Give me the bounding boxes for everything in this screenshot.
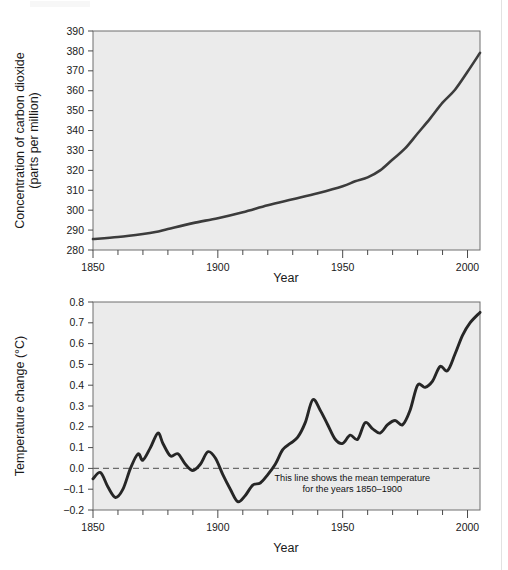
temp-y-axis-ticks: −0.2−0.10.00.10.20.30.40.50.60.70.8 (63, 296, 93, 516)
co2-y-axis-title-line: Concentration of carbon dioxide (13, 52, 27, 229)
temp-x-tick-label: 1900 (206, 521, 230, 533)
co2-y-tick-label: 360 (66, 84, 84, 96)
temp-y-tick-label: 0.8 (69, 296, 84, 308)
temp-y-tick-label: 0.4 (69, 379, 84, 391)
temp-x-tick-label: 1850 (81, 521, 105, 533)
co2-y-tick-label: 310 (66, 184, 84, 196)
co2-y-axis-title-line: (parts per million) (27, 92, 41, 189)
co2-y-axis-ticks: 280290300310320330340350360370380390 (66, 25, 93, 256)
co2-y-tick-label: 280 (66, 244, 84, 256)
temp-x-axis-title: Year (273, 541, 298, 555)
co2-x-tick-label: 1950 (331, 261, 355, 273)
page-root: Whole noil ligingo o'nsu ngnu e ni 28029… (0, 0, 508, 570)
co2-y-tick-label: 300 (66, 204, 84, 216)
temp-y-tick-label: 0.3 (69, 400, 84, 412)
co2-y-tick-label: 350 (66, 104, 84, 116)
chart-temperature-change-svg: −0.2−0.10.00.10.20.30.40.50.60.70.8 1850… (0, 288, 508, 570)
co2-y-tick-label: 370 (66, 64, 84, 76)
temp-y-tick-label: 0.2 (69, 420, 84, 432)
temp-y-tick-label: −0.1 (63, 483, 84, 495)
co2-y-axis-title: Concentration of carbon dioxide(parts pe… (13, 52, 41, 229)
temp-y-tick-label: 0.1 (69, 441, 84, 453)
co2-x-tick-label: 1850 (81, 261, 105, 273)
co2-x-tick-label: 2000 (456, 261, 480, 273)
chart-carbon-dioxide-svg: 280290300310320330340350360370380390 185… (0, 0, 508, 288)
temp-x-tick-label: 1950 (331, 521, 355, 533)
temp-y-tick-label: 0.0 (69, 462, 84, 474)
chart-carbon-dioxide: 280290300310320330340350360370380390 185… (0, 0, 508, 288)
temp-y-axis-title: Temperature change (°C) (13, 336, 27, 476)
co2-y-tick-label: 390 (66, 25, 84, 37)
temp-y-tick-label: 0.5 (69, 358, 84, 370)
temp-annotation-line: This line shows the mean temperature (274, 473, 430, 483)
temp-x-tick-label: 2000 (456, 521, 480, 533)
co2-y-tick-label: 330 (66, 144, 84, 156)
co2-y-tick-label: 340 (66, 124, 84, 136)
temp-x-axis-ticks: 1850190019502000 (81, 510, 479, 533)
co2-plot-area (93, 31, 480, 250)
co2-plot-background (93, 31, 480, 250)
temp-y-tick-label: 0.6 (69, 337, 84, 349)
temp-y-axis-title-line: Temperature change (°C) (13, 336, 27, 476)
co2-y-tick-label: 290 (66, 224, 84, 236)
co2-x-axis-ticks: 1850190019502000 (81, 250, 479, 273)
co2-y-tick-label: 380 (66, 45, 84, 57)
temp-y-tick-label: −0.2 (63, 504, 84, 516)
co2-y-tick-label: 320 (66, 164, 84, 176)
chart-temperature-change: −0.2−0.10.00.10.20.30.40.50.60.70.8 1850… (0, 288, 508, 570)
co2-x-tick-label: 1900 (206, 261, 230, 273)
co2-x-axis-title: Year (273, 271, 298, 285)
temp-annotation-line: for the years 1850–1900 (302, 484, 402, 494)
temp-y-tick-label: 0.7 (69, 316, 84, 328)
